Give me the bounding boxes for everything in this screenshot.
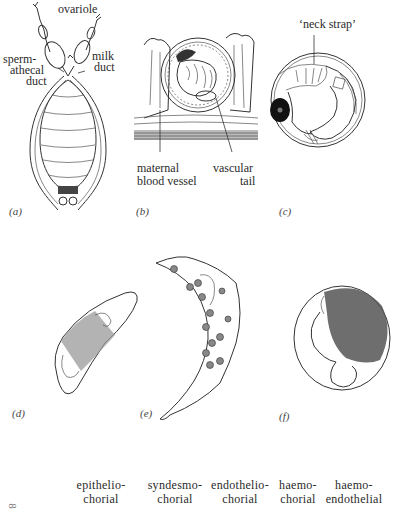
placenta-type-line1: endothelio- (203, 478, 277, 492)
placenta-type-syndesmochorial: syndesmo- chorial (140, 478, 210, 506)
panel-a-illustration (0, 0, 130, 215)
placenta-types-row: 8 epithelio- chorial syndesmo- chorial e… (0, 478, 386, 509)
panel-e-label: (e) (140, 407, 152, 419)
placenta-type-line1: epithelio- (66, 478, 136, 492)
panel-b-illustration (130, 0, 260, 160)
spermathecal-duct-label-3: duct (26, 75, 47, 88)
vascular-tail-label-2: tail (240, 175, 255, 188)
neck-strap-label: ‘neck strap’ (299, 18, 356, 31)
placenta-type-line1: syndesmo- (140, 478, 210, 492)
panel-c-illustration (256, 50, 386, 190)
placenta-type-epitheliochorial: epithelio- chorial (66, 478, 136, 506)
panel-b-label: (b) (136, 205, 149, 217)
ovariole-label: ovariole (58, 3, 97, 16)
placenta-type-line2: chorial (140, 492, 210, 506)
panel-f-label: (f) (279, 410, 289, 422)
panel-f-illustration (290, 282, 395, 392)
maternal-blood-vessel-label-2: blood vessel (137, 175, 197, 188)
milk-duct-label-2: duct (94, 61, 115, 74)
placenta-type-line2: endothelial (318, 492, 390, 506)
placenta-type-haemoendothelial: haemo- endothelial (318, 478, 390, 506)
panel-d-illustration (45, 285, 145, 405)
panel-d-label: (d) (12, 407, 25, 419)
placenta-type-line1: haemo- (318, 478, 390, 492)
placenta-type-line2: chorial (66, 492, 136, 506)
row-marker: 8 (7, 503, 19, 509)
panel-a-label: (a) (9, 205, 22, 217)
panel-c-label: (c) (279, 205, 291, 217)
panel-e-illustration (150, 253, 260, 423)
placenta-type-line2: chorial (203, 492, 277, 506)
placenta-type-endotheliochorial: endothelio- chorial (203, 478, 277, 506)
